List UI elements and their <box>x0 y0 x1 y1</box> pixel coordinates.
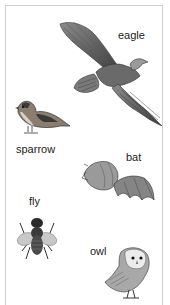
eagle-image <box>56 14 166 126</box>
owl-image <box>101 244 153 302</box>
sparrow-label: sparrow <box>16 144 55 155</box>
animal-card: eagle sparrow bat fly owl <box>5 5 163 305</box>
fly-label: fly <box>29 196 40 207</box>
fly-image <box>14 211 60 263</box>
bat-image <box>78 154 158 204</box>
bat-label: bat <box>126 152 141 163</box>
eagle-label: eagle <box>118 30 145 41</box>
sparrow-image <box>14 96 72 138</box>
